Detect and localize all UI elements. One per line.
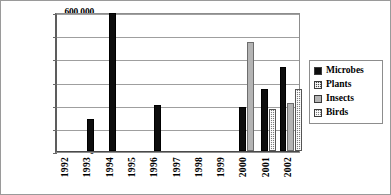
x-axis-line: [57, 151, 299, 152]
bar-insects-2000: [247, 42, 254, 151]
bar-group: [213, 12, 235, 151]
x-axis-tick-label: 1997: [173, 157, 183, 177]
y-axis-tick-mark: [53, 153, 57, 154]
x-axis-tick-label: 2001: [262, 157, 272, 177]
bar-insects-2002: [287, 103, 294, 151]
legend-swatch-icon: [314, 67, 322, 75]
x-axis-tick-label: 2000: [239, 157, 249, 177]
bar-group: [257, 12, 279, 151]
bar-microbes-2000: [239, 107, 246, 151]
legend-item-insects[interactable]: Insects: [314, 92, 380, 106]
x-axis-tick-label: 1992: [61, 157, 71, 177]
chart-figure: 0100,000200,000300,000400,000500,000600,…: [0, 0, 391, 195]
legend-item-microbes[interactable]: Microbes: [314, 64, 380, 78]
legend-swatch-icon: [314, 109, 322, 117]
x-axis-tick-label: 1994: [106, 157, 116, 177]
legend-swatch-icon: [314, 95, 322, 103]
x-axis-tick-label: 1996: [150, 157, 160, 177]
bar-microbes-1993: [87, 119, 94, 151]
x-axis-tick-label: 2002: [284, 157, 294, 177]
x-axis-tick-label: 1993: [83, 157, 93, 177]
bar-birds-2002: [295, 89, 302, 151]
bar-group: [79, 12, 101, 151]
bar-group: [168, 12, 190, 151]
bar-group: [191, 12, 213, 151]
x-axis-tick-label: 1995: [128, 157, 138, 177]
bar-group: [280, 12, 302, 151]
legend-item-label: Microbes: [326, 66, 364, 76]
bar-group: [57, 12, 79, 151]
bar-group: [146, 12, 168, 151]
legend-item-birds[interactable]: Birds: [314, 106, 380, 120]
x-axis-tick-label: 1999: [217, 157, 227, 177]
bar-microbes-2001: [261, 89, 268, 151]
legend-item-plants[interactable]: Plants: [314, 78, 380, 92]
bar-microbes-1994: [109, 13, 116, 151]
bar-microbes-1996: [154, 105, 161, 151]
legend-item-label: Insects: [326, 94, 354, 104]
bar-group: [102, 12, 124, 151]
legend: MicrobesPlantsInsectsBirds: [309, 60, 383, 124]
bar-group: [235, 12, 257, 151]
legend-item-label: Plants: [326, 80, 351, 90]
bar-birds-2001: [269, 109, 276, 151]
legend-item-label: Birds: [326, 108, 348, 118]
bar-microbes-2002: [280, 67, 287, 151]
bar-group: [124, 12, 146, 151]
x-axis-tick-label: 1998: [195, 157, 205, 177]
plot-area: [55, 13, 300, 153]
legend-swatch-icon: [314, 81, 322, 89]
